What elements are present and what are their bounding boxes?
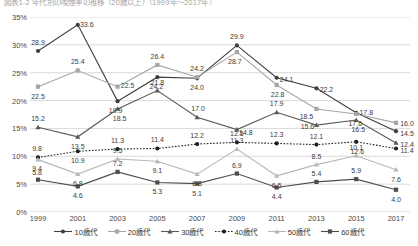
data-label-10歳代-2003: 19.9 bbox=[109, 107, 123, 114]
x-axis-tick-2007: 2007 bbox=[189, 214, 206, 223]
series-line-30歳代 bbox=[38, 91, 396, 143]
data-label-30歳代-2003: 18.5 bbox=[113, 114, 127, 121]
data-label-60歳代-2017: 4.0 bbox=[391, 195, 401, 202]
data-label-10歳代-2011: 24.1 bbox=[280, 75, 294, 82]
data-label-60歳代-1999: 5.8 bbox=[32, 168, 42, 175]
series-60歳代 bbox=[36, 170, 398, 192]
legend-item-10歳代[interactable]: 10歳代 bbox=[54, 226, 96, 237]
series-line-10歳代 bbox=[38, 25, 396, 131]
x-axis-tick-2003: 2003 bbox=[109, 214, 126, 223]
data-label-60歳代-2001: 4.6 bbox=[73, 192, 83, 199]
legend-item-30歳代[interactable]: 30歳代 bbox=[161, 226, 203, 237]
data-label-40歳代-2017: 11.4 bbox=[400, 147, 413, 154]
data-label-50歳代-2001: 6.8 bbox=[73, 180, 83, 187]
chart-title: 図表1-2 年代別の喫煙率の推移（20歳以上）（1999年～2017年） bbox=[4, 0, 414, 7]
data-label-40歳代-2005: 11.4 bbox=[151, 136, 164, 143]
chart-svg bbox=[30, 17, 410, 212]
data-label-50歳代-2011: 6.5 bbox=[272, 181, 282, 188]
data-label-40歳代-2011: 12.3 bbox=[270, 131, 284, 138]
x-axis-tick-2013: 2013 bbox=[308, 214, 325, 223]
data-label-10歳代-2009: 29.9 bbox=[230, 33, 244, 40]
data-label-10歳代-2001: 33.6 bbox=[80, 20, 94, 27]
chart-legend: 10歳代20歳代30歳代40歳代50歳代60歳代 bbox=[0, 226, 418, 237]
legend-swatch-50歳代 bbox=[268, 227, 286, 236]
data-label-10歳代-1999: 28.9 bbox=[31, 38, 45, 45]
data-label-50歳代-2005: 9.1 bbox=[152, 167, 162, 174]
data-label-20歳代-2009: 28.7 bbox=[228, 58, 242, 65]
data-label-40歳代-2007: 12.2 bbox=[190, 132, 204, 139]
series-10歳代 bbox=[36, 23, 398, 134]
y-axis-tick-2: 10% bbox=[12, 152, 27, 161]
data-label-60歳代-2009: 6.9 bbox=[232, 161, 242, 168]
x-axis-tick-2005: 2005 bbox=[149, 214, 166, 223]
data-label-10歳代-2015: 17.8 bbox=[359, 108, 373, 115]
data-label-20歳代-2017: 16.0 bbox=[400, 119, 414, 126]
data-label-30歳代-2011: 17.9 bbox=[270, 100, 284, 107]
y-axis-tick-3: 15% bbox=[12, 124, 27, 133]
legend-swatch-10歳代 bbox=[54, 227, 72, 236]
chart-container: 図表1-2 年代別の喫煙率の推移（20歳以上）（1999年～2017年） 0%5… bbox=[0, 0, 418, 246]
data-label-50歳代-2015: 10.1 bbox=[349, 143, 363, 150]
data-label-50歳代-2003: 9.5 bbox=[113, 147, 123, 154]
legend-item-60歳代[interactable]: 60歳代 bbox=[321, 226, 363, 237]
y-axis-tick-1: 5% bbox=[16, 180, 27, 189]
legend-label-30歳代: 30歳代 bbox=[181, 226, 203, 237]
legend-label-20歳代: 20歳代 bbox=[128, 226, 150, 237]
data-label-10歳代-2007: 24.0 bbox=[190, 84, 204, 91]
data-label-60歳代-2007: 5.1 bbox=[192, 189, 202, 196]
data-label-60歳代-2011: 4.4 bbox=[272, 193, 282, 200]
data-label-50歳代-2009: 11.3 bbox=[230, 137, 243, 144]
x-axis-tick-2009: 2009 bbox=[229, 214, 246, 223]
legend-item-20歳代[interactable]: 20歳代 bbox=[108, 226, 150, 237]
x-axis-tick-2015: 2015 bbox=[348, 214, 365, 223]
y-axis-tick-5: 25% bbox=[12, 68, 27, 77]
data-label-30歳代-2013: 15.6 bbox=[301, 123, 315, 130]
legend-swatch-20歳代 bbox=[108, 227, 126, 236]
data-label-20歳代-2007: 24.2 bbox=[190, 65, 204, 72]
data-label-60歳代-2015: 5.9 bbox=[351, 167, 361, 174]
y-axis-tick-6: 30% bbox=[12, 40, 27, 49]
data-label-20歳代-2005: 26.4 bbox=[151, 52, 165, 59]
data-label-20歳代-2003: 22.5 bbox=[121, 81, 135, 88]
data-label-20歳代-1999: 22.5 bbox=[31, 92, 45, 99]
data-label-50歳代-2007: 6.8 bbox=[192, 180, 202, 187]
series-30歳代 bbox=[35, 88, 398, 145]
data-label-20歳代-2013: 18.5 bbox=[300, 112, 314, 119]
data-label-10歳代-2013: 22.2 bbox=[320, 86, 334, 93]
data-label-30歳代-1999: 15.2 bbox=[31, 115, 45, 122]
legend-swatch-40歳代 bbox=[215, 227, 233, 236]
data-label-30歳代-2007: 17.0 bbox=[191, 105, 205, 112]
data-label-30歳代-2015: 16.5 bbox=[351, 126, 365, 133]
legend-label-10歳代: 10歳代 bbox=[74, 226, 96, 237]
data-label-50歳代-2017: 7.6 bbox=[391, 175, 401, 182]
y-axis-tick-0: 0% bbox=[16, 208, 27, 217]
x-axis-tick-2001: 2001 bbox=[69, 214, 86, 223]
series-line-40歳代 bbox=[38, 142, 396, 158]
data-label-40歳代-2001: 10.9 bbox=[71, 157, 85, 164]
legend-label-60歳代: 60歳代 bbox=[341, 226, 363, 237]
legend-item-50歳代[interactable]: 50歳代 bbox=[268, 226, 310, 237]
legend-item-40歳代[interactable]: 40歳代 bbox=[215, 226, 257, 237]
series-line-20歳代 bbox=[38, 52, 396, 123]
data-label-10歳代-2017: 14.5 bbox=[400, 130, 414, 137]
data-label-30歳代-2005: 21.8 bbox=[151, 78, 165, 85]
data-label-20歳代-2001: 25.4 bbox=[71, 58, 85, 65]
y-axis-tick-7: 35% bbox=[12, 13, 27, 22]
legend-swatch-60歳代 bbox=[321, 227, 339, 236]
data-label-20歳代-2011: 22.8 bbox=[271, 90, 285, 97]
data-label-60歳代-2003: 7.2 bbox=[113, 159, 123, 166]
data-label-50歳代-2013: 8.5 bbox=[312, 152, 322, 159]
x-axis-tick-2017: 2017 bbox=[388, 214, 405, 223]
y-axis-tick-4: 20% bbox=[12, 96, 27, 105]
data-label-60歳代-2005: 5.3 bbox=[152, 188, 162, 195]
data-label-60歳代-2013: 5.4 bbox=[312, 169, 322, 176]
legend-swatch-30歳代 bbox=[161, 227, 179, 236]
data-label-40歳代-2003: 11.3 bbox=[111, 137, 124, 144]
x-axis-tick-2011: 2011 bbox=[269, 214, 285, 223]
series-line-60歳代 bbox=[38, 172, 396, 190]
plot-area: 0%5%10%15%20%25%30%35%199920012003200520… bbox=[30, 17, 410, 212]
data-label-40歳代-2013: 12.1 bbox=[310, 132, 324, 139]
data-label-40歳代-1999: 9.8 bbox=[32, 145, 42, 152]
data-label-30歳代-2001: 13.5 bbox=[71, 142, 85, 149]
legend-label-50歳代: 50歳代 bbox=[288, 226, 310, 237]
